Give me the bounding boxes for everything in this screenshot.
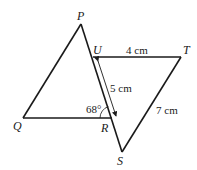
label-T: T [183,43,191,57]
measure-UR: 5 cm [110,82,132,94]
label-P: P [76,9,85,23]
label-R: R [100,121,109,135]
label-S: S [117,154,123,168]
label-U: U [93,43,103,57]
measure-UT: 4 cm [126,44,148,56]
label-Q: Q [13,119,22,133]
segment-PQ [23,24,81,118]
geometry-diagram: P U T Q R S 4 cm 5 cm 7 cm 68° [0,0,197,170]
measure-TS: 7 cm [156,104,178,116]
measure-angle-R: 68° [86,103,101,115]
